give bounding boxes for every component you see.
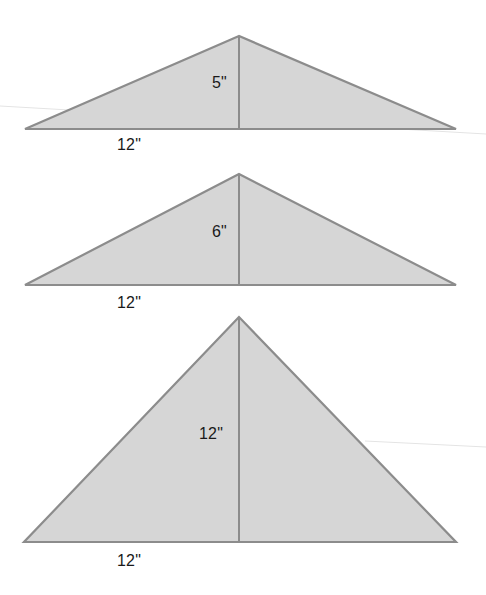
triangle-3-height-label: 12" bbox=[199, 426, 223, 442]
triangle-2-base-label: 12" bbox=[117, 295, 141, 311]
triangle-2 bbox=[25, 174, 456, 285]
triangle-3-base-label: 12" bbox=[117, 553, 141, 569]
triangle-2-height-label: 6" bbox=[212, 224, 227, 240]
triangle-1 bbox=[25, 36, 456, 129]
triangle-shape bbox=[25, 174, 456, 285]
triangle-3 bbox=[24, 317, 456, 542]
triangle-1-height-label: 5" bbox=[212, 75, 227, 91]
scan-artifact-line bbox=[365, 441, 486, 447]
triangle-1-base-label: 12" bbox=[117, 137, 141, 153]
triangles-diagram bbox=[0, 0, 486, 595]
triangle-shape bbox=[25, 36, 456, 129]
